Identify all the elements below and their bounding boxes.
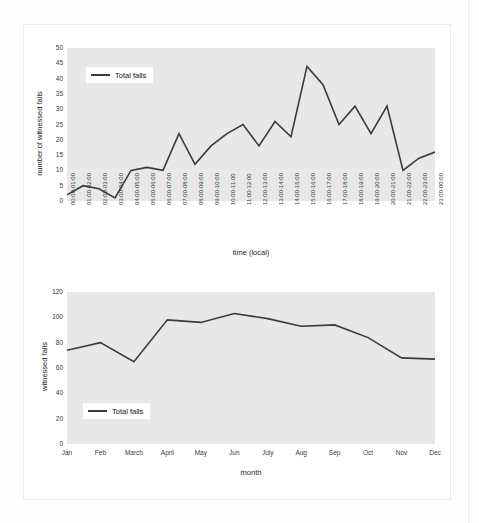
y-tick-label: 60 <box>37 364 63 371</box>
chart-monthly-legend-label: Total falls <box>112 407 143 416</box>
x-tick-label: 12:00-13:00 <box>262 173 268 205</box>
page-right-edge-rule <box>468 0 469 523</box>
x-tick-label: Dec <box>415 449 455 456</box>
chart-monthly-series-line <box>67 292 435 444</box>
chart-hourly-legend: Total falls <box>86 67 153 83</box>
x-tick-label: 05:00-06:00 <box>150 173 156 205</box>
x-tick-label: 21:00-22:00 <box>406 173 412 205</box>
x-tick-label: 13:00-14:00 <box>278 173 284 205</box>
legend-line-swatch-icon <box>91 74 110 76</box>
y-tick-label: 80 <box>37 339 63 346</box>
x-tick-label: 02:00-03:00 <box>102 173 108 205</box>
x-tick-label: 06:00-07:00 <box>166 173 172 205</box>
x-tick-label: 09:00-10:00 <box>214 173 220 205</box>
y-tick-label: 0 <box>37 440 63 447</box>
x-tick-label: 15:00-16:00 <box>310 173 316 205</box>
chart-hourly-falls: number of witnessed falls 05101520253035… <box>23 24 451 267</box>
x-tick-label: 19:00-20:00 <box>374 173 380 205</box>
y-tick-label: 10 <box>37 166 63 173</box>
y-tick-label: 20 <box>37 136 63 143</box>
y-tick-label: 5 <box>37 182 63 189</box>
chart-monthly-legend: Total falls <box>83 403 150 419</box>
x-tick-label: 17:00-18:00 <box>342 173 348 205</box>
y-tick-label: 40 <box>37 75 63 82</box>
y-tick-label: 100 <box>37 313 63 320</box>
x-tick-label: 23:00-00:00 <box>438 173 444 205</box>
x-tick-label: 10:00-11:00 <box>230 173 236 205</box>
x-tick-label: 18:00-19:00 <box>358 173 364 205</box>
y-tick-label: 40 <box>37 389 63 396</box>
y-tick-label: 45 <box>37 59 63 66</box>
chart-hourly-legend-label: Total falls <box>115 71 146 80</box>
x-tick-label: 00:00-01:00 <box>70 173 76 205</box>
chart-monthly-x-axis-label: month <box>67 468 435 477</box>
y-tick-label: 30 <box>37 105 63 112</box>
chart-monthly-plot-area <box>67 292 435 444</box>
x-tick-label: 08:00-09:00 <box>198 173 204 205</box>
x-tick-label: 04:00-05:00 <box>134 173 140 205</box>
x-tick-label: 22:00-23:00 <box>422 173 428 205</box>
chart-monthly-falls: witnessed falls 020406080100120 Total fa… <box>23 282 451 487</box>
x-tick-label: 11:00-12:00 <box>246 173 252 205</box>
x-tick-label: 07:00-08:00 <box>182 173 188 205</box>
legend-line-swatch-icon <box>88 410 107 412</box>
y-tick-label: 50 <box>37 44 63 51</box>
page-canvas: number of witnessed falls 05101520253035… <box>0 0 479 523</box>
y-tick-label: 35 <box>37 90 63 97</box>
y-tick-label: 25 <box>37 121 63 128</box>
x-tick-label: 20:00-21:00 <box>390 173 396 205</box>
y-tick-label: 0 <box>37 197 63 204</box>
x-tick-label: 14:00-15:00 <box>294 173 300 205</box>
x-tick-label: 03:00-04:00 <box>118 173 124 205</box>
x-tick-label: 01:00-02:00 <box>86 173 92 205</box>
y-tick-label: 15 <box>37 151 63 158</box>
y-tick-label: 120 <box>37 288 63 295</box>
x-tick-label: 16:00-17:00 <box>326 173 332 205</box>
y-tick-label: 20 <box>37 415 63 422</box>
chart-hourly-x-axis-label: time (local) <box>67 248 435 257</box>
